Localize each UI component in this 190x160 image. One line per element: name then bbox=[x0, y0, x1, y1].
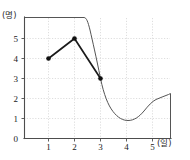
y-tick-label-1: 1 bbox=[6, 115, 18, 124]
data-point-marker bbox=[72, 36, 77, 41]
x-tick-label-1: 1 bbox=[43, 143, 55, 152]
axis-frame bbox=[24, 17, 171, 139]
chart-container: (명) (일) 5 4 3 2 1 0 1 2 3 4 5 bbox=[0, 0, 190, 160]
x-tick-label-5: 5 bbox=[147, 143, 159, 152]
x-tick-label-3: 3 bbox=[95, 143, 107, 152]
x-tick-label-2: 2 bbox=[69, 143, 81, 152]
y-axis-unit-label: (명) bbox=[2, 11, 17, 20]
x-axis-unit-label: (일) bbox=[157, 139, 172, 148]
y-tick-label-2: 2 bbox=[6, 95, 18, 104]
y-tick-label-4: 4 bbox=[6, 55, 18, 64]
axis-tick-marks bbox=[22, 39, 153, 142]
x-tick-label-4: 4 bbox=[121, 143, 133, 152]
y-tick-label-5: 5 bbox=[6, 35, 18, 44]
curve-series-line bbox=[25, 18, 171, 139]
y-tick-label-3: 3 bbox=[6, 75, 18, 84]
y-tick-label-0: 0 bbox=[6, 135, 18, 144]
chart-plot-area bbox=[0, 0, 190, 160]
data-point-marker bbox=[98, 76, 103, 81]
data-point-marker bbox=[46, 56, 51, 61]
